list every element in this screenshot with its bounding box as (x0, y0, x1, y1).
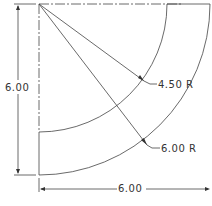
inner-radius-label: 4.50 R (158, 79, 193, 90)
arrowhead-right (205, 187, 210, 191)
radius-leader-outer (39, 4, 147, 145)
height-dimension-label: 6.00 (5, 82, 29, 93)
outer-radius-label: 6.00 R (161, 143, 196, 154)
technical-drawing: 4.50 R 6.00 R 6.00 6.00 (0, 0, 212, 206)
arrowhead-top (16, 5, 20, 10)
radius-leader-inner-tail (144, 81, 157, 84)
inner-arc (39, 4, 167, 132)
arrowhead-left (40, 187, 45, 191)
width-dimension-label: 6.00 (118, 183, 142, 194)
arrowhead-outer-radius (141, 138, 147, 145)
radius-leader-inner (39, 4, 144, 81)
radius-leader-outer-tail (147, 145, 160, 148)
arrowhead-bottom (16, 169, 20, 174)
